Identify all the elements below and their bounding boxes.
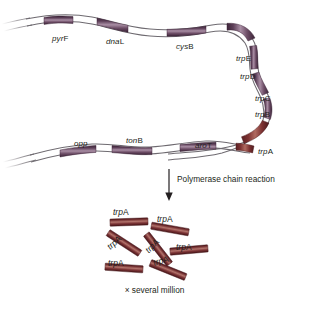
fragment-1 (110, 218, 148, 227)
strand-tail-bottom-left (3, 154, 36, 168)
gene-label-trpC: trpC (255, 94, 271, 103)
gene-block-trpA (242, 120, 269, 143)
gene-block-pyrF (44, 16, 73, 24)
gene-label-trpD: trpD (240, 72, 256, 81)
gene-label-trpB: trpB (255, 110, 270, 119)
gene-block-cysB (167, 26, 206, 36)
fragment-cluster (105, 218, 208, 281)
gene-label-pyrF: pyrF (52, 34, 68, 43)
pcr-figure: pyrF dnaL cysB trpE trpD trpC trpB trpA … (0, 0, 309, 310)
gene-label-trpA: trpA (258, 147, 273, 156)
gene-label-trpE: trpE (236, 54, 251, 63)
fragment-label-1: trpA (113, 207, 129, 217)
fragment-2 (151, 222, 190, 236)
gene-label-tonB: tonB (126, 136, 143, 145)
gene-label-cysB: cysB (176, 42, 194, 51)
multiplier-caption: × several million (0, 285, 309, 295)
gene-label-aroT: aroT (195, 141, 212, 150)
gene-block-dnaL (97, 18, 128, 32)
pcr-arrow-label: Polymerase chain reaction (177, 174, 275, 184)
fragment-label-5: trpA (176, 242, 192, 252)
fragment-label-2: trpA (157, 214, 173, 224)
fragment-label-6: trpA (108, 258, 124, 268)
pcr-arrow (165, 169, 172, 201)
gene-label-dnaL: dnaL (106, 37, 124, 46)
strand-tail-top-left (2, 18, 32, 31)
gene-label-opp: opp (74, 139, 88, 148)
